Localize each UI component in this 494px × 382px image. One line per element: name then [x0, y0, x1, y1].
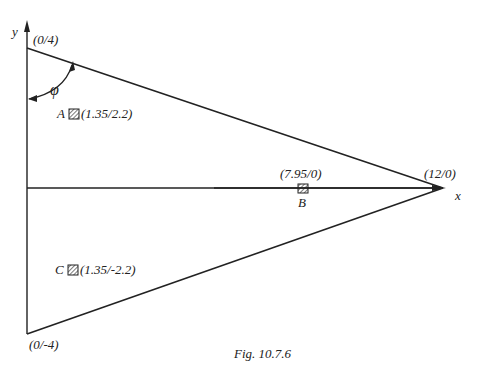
hatched-square-icon	[69, 109, 79, 119]
x-axis	[27, 185, 446, 191]
vertex-label-bottom: (0/-4)	[29, 337, 59, 352]
angle-label: φ	[50, 81, 59, 99]
y-axis	[24, 20, 30, 334]
point-a-coords: (1.35/2.2)	[81, 106, 132, 121]
angle-arrow-icon	[28, 95, 37, 102]
lower-edge	[27, 188, 443, 334]
hatched-square-icon	[68, 265, 78, 275]
point-c: C (1.35/-2.2)	[55, 262, 136, 277]
point-c-name: C	[55, 262, 64, 277]
triangle-diagram: y x φ (0/4) (12/0) (0/-4) A (1.35/2.2) (…	[0, 0, 494, 382]
y-axis-label: y	[10, 24, 18, 39]
x-axis-label: x	[454, 188, 461, 203]
vertex-label-right: (12/0)	[424, 166, 456, 181]
vertex-label-top: (0/4)	[33, 32, 58, 47]
point-a-name: A	[56, 106, 65, 121]
figure-caption: Fig. 10.7.6	[233, 346, 292, 361]
point-a: A (1.35/2.2)	[56, 106, 132, 121]
point-b-coords: (7.95/0)	[280, 166, 322, 181]
y-axis-arrow-icon	[24, 20, 30, 32]
hatched-square-icon	[298, 184, 308, 193]
point-c-coords: (1.35/-2.2)	[80, 262, 136, 277]
point-b-name: B	[298, 195, 306, 210]
